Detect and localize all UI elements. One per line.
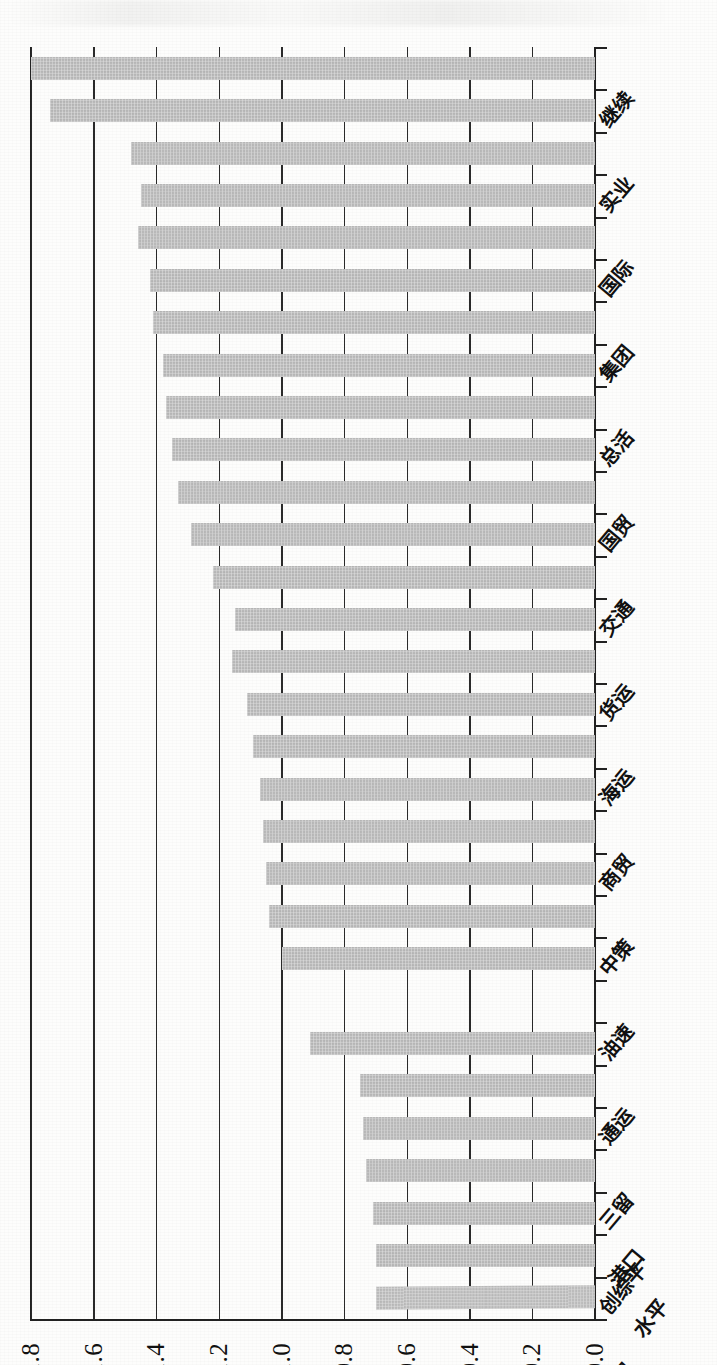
- category-label: 通运: [596, 1105, 637, 1148]
- category-tick: [596, 768, 607, 770]
- category-label: 海运: [596, 766, 637, 809]
- bar: [131, 142, 595, 165]
- bar: [138, 226, 595, 249]
- category-label: 国贸: [596, 512, 637, 555]
- value-tick-label: 0.4: [456, 1336, 484, 1365]
- category-tick: [596, 725, 607, 727]
- value-tick-label: 1.6: [80, 1336, 108, 1365]
- bar: [282, 947, 595, 970]
- bar: [191, 523, 595, 546]
- bar: [163, 354, 595, 377]
- value-tick-label: 0.6: [393, 1336, 421, 1365]
- bar: [141, 184, 595, 207]
- category-tick: [596, 980, 607, 982]
- bar: [166, 396, 595, 419]
- category-tick: [596, 386, 607, 388]
- category-tick: [596, 1149, 607, 1151]
- category-label: 货运: [596, 681, 637, 724]
- category-tick: [596, 513, 607, 515]
- bar-chart-plot: 1.81.61.41.21.00.80.60.40.20.0 继续实业国际集团总…: [0, 0, 717, 1365]
- category-tick: [596, 301, 607, 303]
- gridline-1.8: [31, 47, 33, 1319]
- bar: [150, 269, 595, 292]
- value-tick-label: 1.2: [205, 1336, 233, 1365]
- bar: [266, 862, 595, 885]
- value-tick-label: 0.0: [581, 1336, 609, 1365]
- value-tick-label: 1.8: [17, 1336, 45, 1365]
- value-tick-label: 1.4: [142, 1336, 170, 1365]
- category-tick: [596, 217, 607, 219]
- category-tick: [596, 683, 607, 685]
- category-tick: [596, 1022, 607, 1024]
- category-axis-title: 港口: [601, 1241, 651, 1292]
- category-tick: [596, 47, 607, 49]
- bar: [376, 1285, 595, 1309]
- category-label: 商贸: [596, 851, 637, 894]
- bar: [178, 481, 595, 504]
- bar: [235, 608, 595, 631]
- category-tick: [596, 598, 607, 600]
- bar: [247, 693, 595, 716]
- category-label: 集团: [596, 342, 637, 385]
- bar: [373, 1202, 595, 1225]
- category-axis-line: [30, 1319, 596, 1321]
- bar: [31, 57, 595, 80]
- category-tick: [596, 1234, 607, 1236]
- category-tick: [596, 810, 607, 812]
- bar: [310, 1032, 595, 1055]
- bar: [260, 778, 595, 801]
- category-tick: [596, 471, 607, 473]
- category-tick: [596, 429, 607, 431]
- category-tick: [596, 556, 607, 558]
- bar: [363, 1117, 595, 1140]
- value-tick-label: 0.8: [330, 1336, 358, 1365]
- category-label: 油速: [596, 1021, 637, 1064]
- category-tick: [596, 895, 607, 897]
- category-tick: [596, 853, 607, 855]
- category-tick: [596, 1192, 607, 1194]
- category-label: 实业: [596, 173, 637, 216]
- bar: [253, 735, 595, 758]
- category-tick: [596, 641, 607, 643]
- value-tick-label: 1.0: [268, 1336, 296, 1365]
- bar: [232, 650, 595, 673]
- value-axis-title: 水平: [625, 1291, 675, 1342]
- category-tick: [596, 1065, 607, 1067]
- gridline-1.6: [93, 47, 95, 1319]
- category-tick: [596, 174, 607, 176]
- bar: [50, 99, 595, 122]
- category-label: 总活: [596, 427, 637, 470]
- bar: [172, 438, 595, 461]
- category-label: 国际: [596, 257, 637, 300]
- category-label: 继续: [596, 88, 637, 131]
- category-label: 交通: [596, 597, 637, 640]
- bar: [263, 820, 595, 843]
- category-label: 三留: [596, 1190, 637, 1233]
- category-tick: [596, 259, 607, 261]
- bar: [366, 1159, 595, 1182]
- category-tick: [596, 937, 607, 939]
- bar: [213, 566, 595, 589]
- bar: [376, 1244, 595, 1267]
- category-tick: [596, 89, 607, 91]
- category-label: 中策: [596, 936, 637, 979]
- bar: [269, 905, 595, 928]
- value-tick-label: 0.2: [518, 1336, 546, 1365]
- category-tick: [596, 344, 607, 346]
- bar: [153, 311, 595, 334]
- category-tick: [596, 1319, 607, 1321]
- category-tick: [596, 1107, 607, 1109]
- bar: [360, 1074, 595, 1097]
- category-tick: [596, 132, 607, 134]
